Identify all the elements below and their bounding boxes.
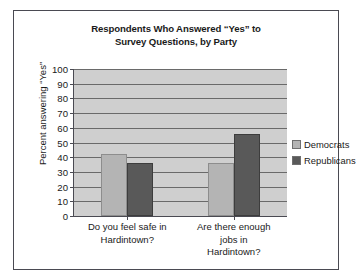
y-tick-mark-0 [70, 216, 74, 217]
chart-title-line-1: Respondents Who Answered “Yes” to [14, 23, 338, 36]
legend-swatch-democrats-icon [292, 140, 301, 149]
y-tick-label-40: 40 [46, 152, 68, 163]
legend-item-democrats[interactable]: Democrats [292, 139, 354, 150]
y-tick-label-60: 60 [46, 122, 68, 133]
y-tick-mark-30 [70, 172, 74, 173]
chart-title-line-2: Survey Questions, by Party [14, 36, 338, 49]
bar-republicans-group-2 [234, 134, 260, 216]
x-axis-label-group-2-line-1: Are there enough [181, 221, 288, 234]
gridline-90 [74, 84, 287, 85]
legend-item-republicans[interactable]: Republicans [292, 155, 354, 166]
bar-democrats-group-2 [208, 163, 234, 216]
y-tick-label-90: 90 [46, 78, 68, 89]
y-tick-label-50: 50 [46, 137, 68, 148]
legend-swatch-republicans-icon [292, 156, 301, 165]
plot-area: 0102030405060708090100 Do you feel safe … [73, 69, 287, 217]
y-tick-mark-20 [70, 187, 74, 188]
chart-title: Respondents Who Answered “Yes” to Survey… [14, 23, 338, 48]
x-axis-label-group-2-line-2: jobs in [181, 234, 288, 247]
y-tick-label-30: 30 [46, 166, 68, 177]
y-tick-mark-90 [70, 84, 74, 85]
gridline-80 [74, 98, 287, 99]
legend-label-democrats: Democrats [304, 139, 349, 150]
y-tick-label-80: 80 [46, 93, 68, 104]
legend-label-republicans: Republicans [304, 155, 356, 166]
chart-legend: DemocratsRepublicans [292, 139, 354, 171]
y-tick-mark-50 [70, 143, 74, 144]
y-tick-mark-80 [70, 98, 74, 99]
y-tick-mark-40 [70, 157, 74, 158]
y-tick-mark-70 [70, 113, 74, 114]
y-tick-label-100: 100 [46, 64, 68, 75]
bar-republicans-group-1 [127, 163, 153, 216]
bar-democrats-group-1 [101, 154, 127, 216]
x-axis-label-group-1-line-1: Do you feel safe in [74, 221, 181, 234]
chart-frame: Respondents Who Answered “Yes” to Survey… [13, 10, 339, 270]
y-tick-mark-10 [70, 201, 74, 202]
x-axis-label-group-2-line-3: Hardintown? [181, 246, 288, 259]
gridline-70 [74, 113, 287, 114]
y-tick-label-70: 70 [46, 108, 68, 119]
x-tick-mark-1 [127, 216, 128, 220]
y-tick-mark-100 [70, 69, 74, 70]
x-axis-label-group-1: Do you feel safe inHardintown? [74, 221, 181, 246]
gridline-100 [74, 69, 287, 70]
x-axis-label-group-1-line-2: Hardintown? [74, 234, 181, 247]
y-tick-label-20: 20 [46, 181, 68, 192]
x-axis-label-group-2: Are there enoughjobs inHardintown? [181, 221, 288, 259]
x-tick-mark-2 [234, 216, 235, 220]
y-tick-mark-60 [70, 128, 74, 129]
y-tick-label-0: 0 [46, 211, 68, 222]
y-tick-label-10: 10 [46, 196, 68, 207]
gridline-60 [74, 128, 287, 129]
